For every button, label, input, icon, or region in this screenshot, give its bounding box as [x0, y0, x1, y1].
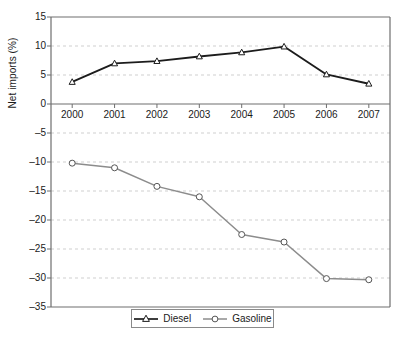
- legend-item-gasoline[interactable]: Gasoline: [202, 313, 271, 325]
- data-point-gasoline: [281, 239, 287, 245]
- x-tick-label: 2004: [222, 110, 262, 120]
- x-tick-label: 2000: [52, 110, 92, 120]
- plot-area: [0, 0, 405, 341]
- x-tick-label: 2007: [349, 110, 389, 120]
- data-point-gasoline: [239, 232, 245, 238]
- x-tick-label: 2003: [179, 110, 219, 120]
- legend-label-gasoline: Gasoline: [232, 314, 271, 324]
- data-point-gasoline: [69, 160, 75, 166]
- data-point-gasoline: [196, 194, 202, 200]
- data-point-gasoline: [154, 183, 160, 189]
- x-tick-label: 2006: [306, 110, 346, 120]
- diesel-line-marker-icon: [133, 313, 159, 325]
- chart-legend: Diesel Gasoline: [131, 309, 274, 328]
- data-point-gasoline: [323, 276, 329, 282]
- x-tick-label: 2002: [137, 110, 177, 120]
- legend-label-diesel: Diesel: [163, 314, 191, 324]
- x-tick-label: 2001: [95, 110, 135, 120]
- x-tick-label: 2005: [264, 110, 304, 120]
- gasoline-line-marker-icon: [202, 313, 228, 325]
- chart-figure: Net imports (%) 151050–5–10–15–20–25–30–…: [0, 0, 405, 341]
- data-point-gasoline: [112, 165, 118, 171]
- legend-item-diesel[interactable]: Diesel: [133, 313, 191, 325]
- data-point-gasoline: [366, 277, 372, 283]
